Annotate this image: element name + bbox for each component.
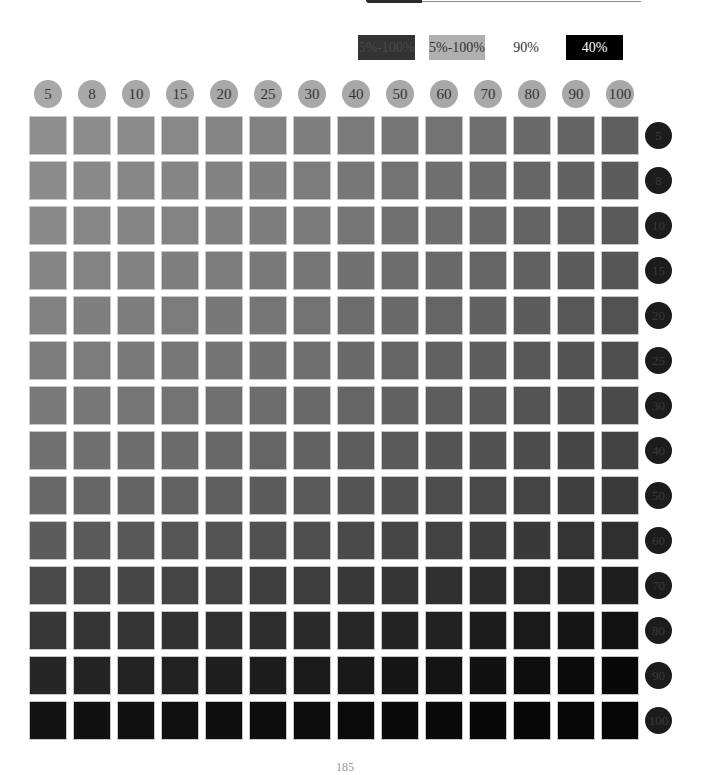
- tint-cell: [161, 701, 199, 740]
- tint-cell: [161, 476, 199, 515]
- header-rule: [422, 1, 641, 2]
- tint-cell: [469, 206, 507, 245]
- tint-cell: [293, 206, 331, 245]
- tint-cell: [557, 251, 595, 290]
- tint-cell: [425, 701, 463, 740]
- tint-cell: [381, 296, 419, 335]
- tint-cell: [29, 656, 67, 695]
- tint-cell: [29, 251, 67, 290]
- tint-cell: [381, 566, 419, 605]
- tint-cell: [249, 161, 287, 200]
- tint-cell: [425, 296, 463, 335]
- tint-cell: [469, 656, 507, 695]
- row-label: 30: [645, 392, 672, 419]
- tint-cell: [337, 521, 375, 560]
- tint-cell: [161, 521, 199, 560]
- tint-cell: [293, 386, 331, 425]
- tint-cell: [337, 296, 375, 335]
- tint-cell: [117, 296, 155, 335]
- tint-cell: [117, 656, 155, 695]
- tint-cell: [117, 386, 155, 425]
- tint-cell: [73, 161, 111, 200]
- tint-cell: [513, 656, 551, 695]
- tint-cell: [73, 566, 111, 605]
- row-label: 70: [645, 572, 672, 599]
- tint-cell: [381, 701, 419, 740]
- tint-cell: [161, 206, 199, 245]
- tint-cell: [205, 386, 243, 425]
- tint-cell: [249, 116, 287, 155]
- tint-cell: [381, 161, 419, 200]
- tint-cell: [29, 476, 67, 515]
- tint-cell: [381, 656, 419, 695]
- tint-cell: [249, 206, 287, 245]
- tint-cell: [29, 566, 67, 605]
- tint-cell: [161, 566, 199, 605]
- tint-cell: [117, 476, 155, 515]
- tint-cell: [513, 521, 551, 560]
- tint-cell: [469, 116, 507, 155]
- tint-cell: [381, 341, 419, 380]
- row-label: 8: [645, 167, 672, 194]
- column-label: 10: [122, 80, 150, 108]
- tint-cell: [337, 566, 375, 605]
- tint-cell: [29, 431, 67, 470]
- tint-cell: [557, 341, 595, 380]
- tint-cell: [557, 206, 595, 245]
- tint-cell: [513, 296, 551, 335]
- tint-cell: [513, 701, 551, 740]
- tint-cell: [73, 386, 111, 425]
- tint-cell: [337, 431, 375, 470]
- tint-cell: [73, 251, 111, 290]
- tint-cell: [205, 251, 243, 290]
- tint-cell: [249, 701, 287, 740]
- tint-cell: [557, 611, 595, 650]
- tint-cell: [513, 251, 551, 290]
- tint-cell: [29, 296, 67, 335]
- tint-cell: [469, 341, 507, 380]
- tint-cell: [381, 206, 419, 245]
- column-label: 15: [166, 80, 194, 108]
- tint-cell: [337, 611, 375, 650]
- tint-cell: [337, 656, 375, 695]
- tint-cell: [73, 206, 111, 245]
- column-label: 60: [430, 80, 458, 108]
- tint-cell: [205, 656, 243, 695]
- column-label: 25: [254, 80, 282, 108]
- tint-cell: [469, 161, 507, 200]
- legend-item-light-range: 5%-100%: [429, 35, 485, 60]
- tint-cell: [337, 161, 375, 200]
- tint-cell: [161, 341, 199, 380]
- tint-cell: [73, 476, 111, 515]
- column-label: 80: [518, 80, 546, 108]
- tint-cell: [425, 431, 463, 470]
- tint-cell: [117, 521, 155, 560]
- tint-cell: [557, 566, 595, 605]
- tint-cell: [29, 161, 67, 200]
- tint-cell: [73, 611, 111, 650]
- tint-cell: [293, 611, 331, 650]
- row-label: 90: [645, 662, 672, 689]
- tint-cell: [513, 386, 551, 425]
- tint-cell: [161, 431, 199, 470]
- tint-cell: [29, 206, 67, 245]
- tint-cell: [425, 116, 463, 155]
- tint-cell: [249, 431, 287, 470]
- tint-cell: [249, 521, 287, 560]
- tint-cell: [469, 386, 507, 425]
- tint-cell: [337, 251, 375, 290]
- tint-cell: [601, 476, 639, 515]
- row-label: 100: [645, 707, 672, 734]
- tint-cell: [469, 566, 507, 605]
- legend-item-black: 40%: [566, 35, 623, 60]
- tint-cell: [513, 566, 551, 605]
- tint-cell: [161, 296, 199, 335]
- tint-cell: [381, 521, 419, 560]
- tint-cell: [29, 521, 67, 560]
- tint-cell: [337, 476, 375, 515]
- tint-cell: [117, 341, 155, 380]
- tint-cell: [601, 161, 639, 200]
- tint-cell: [73, 656, 111, 695]
- column-label: 5: [34, 80, 62, 108]
- row-label: 15: [645, 257, 672, 284]
